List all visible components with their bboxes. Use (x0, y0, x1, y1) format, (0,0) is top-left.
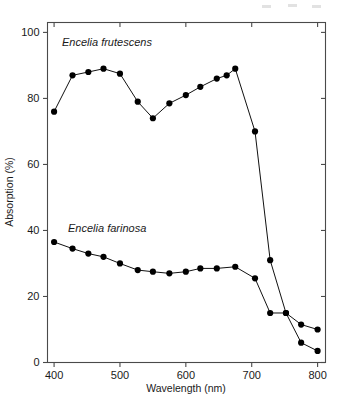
y-tick-label: 20 (27, 290, 39, 302)
data-point (135, 99, 141, 105)
data-point (252, 275, 258, 281)
data-point (51, 239, 57, 245)
data-series-group (51, 66, 321, 354)
data-point (298, 340, 304, 346)
data-point (197, 84, 203, 90)
x-tick-label: 500 (111, 369, 129, 381)
chart-canvas: 400500600700800 020406080100 Encelia fru… (0, 0, 340, 407)
data-point (232, 66, 238, 72)
series-label-encelia-farinosa: Encelia farinosa (68, 222, 146, 234)
y-tick-label: 80 (27, 92, 39, 104)
data-point (166, 100, 172, 106)
data-point (183, 92, 189, 98)
data-point (252, 128, 258, 134)
data-point (166, 270, 172, 276)
series-encelia-farinosa (51, 239, 321, 354)
y-tick-label: 0 (33, 356, 39, 368)
data-point (224, 72, 230, 78)
y-axis-title: Absorption (%) (3, 157, 15, 226)
data-point (283, 310, 289, 316)
y-tick-label: 60 (27, 158, 39, 170)
data-point (150, 115, 156, 121)
y-tick-labels: 020406080100 (21, 26, 39, 368)
data-point (214, 265, 220, 271)
axis-ticks (43, 23, 326, 368)
x-axis-title: Wavelength (nm) (146, 382, 226, 394)
data-point (69, 72, 75, 78)
data-point (183, 269, 189, 275)
data-point (85, 250, 91, 256)
data-point (150, 269, 156, 275)
data-point (100, 66, 106, 72)
x-tick-label: 400 (45, 369, 63, 381)
x-tick-labels: 400500600700800 (45, 369, 327, 381)
y-tick-label: 100 (21, 26, 39, 38)
data-point (100, 254, 106, 260)
data-point (135, 267, 141, 273)
data-point (117, 71, 123, 77)
x-tick-label: 600 (177, 369, 195, 381)
data-point (232, 264, 238, 270)
absorption-spectrum-figure: 400500600700800 020406080100 Encelia fru… (0, 0, 340, 407)
series-label-encelia-frutescens: Encelia frutescens (62, 36, 152, 48)
data-point (69, 246, 75, 252)
x-tick-label: 700 (243, 369, 261, 381)
data-point (298, 321, 304, 327)
data-point (314, 326, 320, 332)
data-point (314, 348, 320, 354)
data-point (267, 257, 273, 263)
cropped-caption-remnant (262, 4, 321, 8)
y-tick-label: 40 (27, 224, 39, 236)
series-annotations: Encelia frutescensEncelia farinosa (62, 36, 152, 234)
data-point (51, 109, 57, 115)
x-tick-label: 800 (308, 369, 326, 381)
data-point (214, 76, 220, 82)
data-point (117, 260, 123, 266)
data-point (197, 265, 203, 271)
series-encelia-frutescens (51, 66, 321, 333)
data-point (267, 310, 273, 316)
data-point (85, 69, 91, 75)
